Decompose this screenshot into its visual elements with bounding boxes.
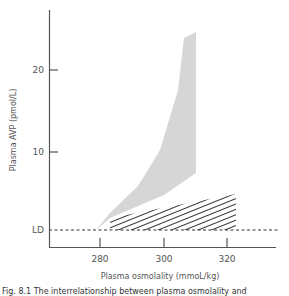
gray-shaded-region <box>96 32 196 230</box>
y-axis-title: Plasma AVP (pmol/L) <box>9 89 18 172</box>
x-tick-label-280: 280 <box>91 254 108 264</box>
x-axis-title: Plasma osmolality (mmoL/kg) <box>101 272 220 281</box>
x-tick-label-300: 300 <box>155 254 172 264</box>
y-tick-label-ld: LD <box>32 225 44 235</box>
y-tick-label-20: 20 <box>33 65 45 75</box>
figure-caption: Fig. 8.1 The interrelationship between p… <box>2 287 247 296</box>
y-tick-label-10: 10 <box>33 147 45 157</box>
x-tick-label-320: 320 <box>218 254 235 264</box>
